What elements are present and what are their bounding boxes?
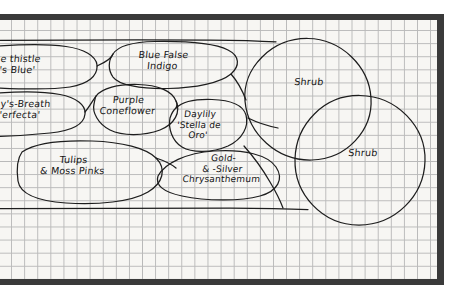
plant-label-chrysanthemum: Gold- & -Silver Chrysanthemum — [163, 153, 281, 185]
plant-shape-shrub-upper — [245, 38, 371, 160]
plant-label-blue-false-indigo: Blue False Indigo — [117, 49, 209, 71]
plant-label-shrub-upper: Shrub — [283, 76, 334, 87]
plant-label-purple-coneflower: Purple Coneflower — [84, 94, 172, 116]
plant-label-globe-thistle: e thistle 's Blue' — [0, 53, 67, 75]
bed-back-edge-line — [0, 40, 276, 42]
plant-label-tulips-moss-pinks: Tulips & Moss Pinks — [16, 154, 130, 176]
plant-label-shrub-lower: Shrub — [337, 147, 388, 158]
garden-bed-drawing — [0, 0, 467, 295]
garden-plan-screenshot: e thistle 's Blue' y's-Breath 'erfecta' … — [0, 0, 467, 295]
plant-label-daylily: Daylily 'Stella de Oro' — [164, 109, 233, 141]
bed-connector-stroke-5 — [231, 74, 246, 100]
bed-front-edge-line — [0, 208, 308, 210]
bed-connector-stroke-3 — [176, 101, 177, 108]
plant-label-babys-breath: y's-Breath 'erfecta' — [0, 98, 71, 120]
